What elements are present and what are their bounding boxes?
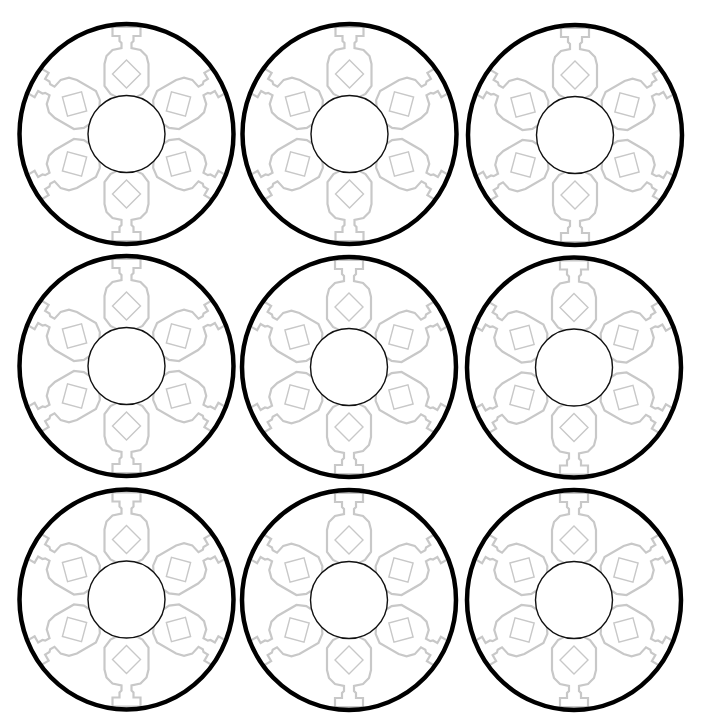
petal-4 xyxy=(328,170,372,241)
petal-1 xyxy=(552,261,596,332)
petal-4 xyxy=(327,403,371,474)
petal-1 xyxy=(327,493,371,564)
petal-4 xyxy=(552,404,596,475)
petal-1 xyxy=(327,260,371,331)
petal-4 xyxy=(552,636,596,707)
petal-4 xyxy=(553,171,597,242)
inner-ring xyxy=(536,329,613,406)
petal-1 xyxy=(105,259,149,330)
petal-1 xyxy=(552,493,596,564)
petal-4 xyxy=(105,402,149,473)
medallion-6 xyxy=(467,258,681,478)
inner-ring xyxy=(311,96,388,173)
medallion-7 xyxy=(20,490,234,710)
petal-1 xyxy=(328,27,372,98)
petal-1 xyxy=(105,493,149,564)
petal-1 xyxy=(553,28,597,99)
medallion-1 xyxy=(20,24,234,244)
petal-4 xyxy=(327,636,371,707)
medallion-4 xyxy=(20,256,234,476)
inner-ring xyxy=(537,97,614,174)
medallion-5 xyxy=(242,257,456,477)
medallion-8 xyxy=(242,490,456,710)
medallion-grid xyxy=(0,0,703,726)
petal-4 xyxy=(105,170,149,241)
inner-ring xyxy=(311,562,388,639)
inner-ring xyxy=(88,328,165,405)
inner-ring xyxy=(311,329,388,406)
inner-ring xyxy=(88,96,165,173)
inner-ring xyxy=(88,561,165,638)
petal-4 xyxy=(105,636,149,707)
medallion-3 xyxy=(468,25,682,245)
inner-ring xyxy=(536,562,613,639)
medallion-9 xyxy=(467,490,681,710)
petal-1 xyxy=(105,27,149,98)
medallion-2 xyxy=(243,24,457,244)
